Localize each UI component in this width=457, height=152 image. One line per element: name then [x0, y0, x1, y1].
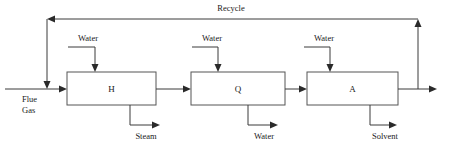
feed-label-line2: Gas [22, 105, 35, 115]
process-flow-diagram: Recycle Flue Gas H Water Steam [0, 0, 457, 152]
feed-inlet-arrow-icon [59, 86, 67, 93]
unit-a-group: A Water Solvent [304, 33, 399, 141]
unit-a-label: A [349, 84, 356, 94]
recycle-up-arrow-icon [415, 19, 422, 27]
unit-q-label: Q [235, 84, 242, 94]
unit-h-steam-outlet-label: Steam [135, 131, 157, 141]
unit-a-solvent-outlet-arrow-icon [389, 122, 397, 129]
unit-h-water-inlet-label: Water [78, 33, 98, 43]
feed-stream-group: Flue Gas [5, 86, 67, 116]
connector-h-to-q-group [156, 86, 191, 93]
connector-h-to-q-arrow-icon [183, 86, 191, 93]
product-outlet-arrow-icon [429, 86, 437, 93]
unit-a-water-inlet-arrow-icon [327, 64, 334, 72]
recycle-label: Recycle [217, 3, 245, 13]
unit-a-water-inlet-line [304, 47, 330, 65]
unit-a-water-inlet-label: Water [314, 33, 334, 43]
recycle-left-arrow-icon [47, 16, 55, 23]
unit-q-group: Q Water Water [191, 33, 285, 141]
flowsheet-canvas: Recycle Flue Gas H Water Steam [0, 0, 457, 152]
unit-a-solvent-outlet-line [370, 105, 390, 125]
unit-h-group: H Water Steam [67, 33, 160, 141]
unit-q-water-inlet-line [192, 47, 218, 65]
unit-q-water-inlet-arrow-icon [215, 64, 222, 72]
unit-h-label: H [108, 84, 115, 94]
connector-q-to-a-arrow-icon [299, 86, 307, 93]
recycle-down-arrow-icon [44, 81, 51, 89]
unit-a-solvent-outlet-label: Solvent [372, 131, 399, 141]
unit-h-steam-outlet-arrow-icon [152, 122, 160, 129]
unit-h-steam-outlet-line [130, 105, 153, 125]
unit-q-water-outlet-label: Water [254, 131, 274, 141]
unit-q-water-outlet-line [248, 105, 271, 125]
connector-q-to-a-group [285, 86, 307, 93]
unit-h-water-inlet-arrow-icon [92, 64, 99, 72]
feed-label-line1: Flue [22, 94, 37, 104]
unit-q-water-inlet-label: Water [202, 33, 222, 43]
unit-h-water-inlet-line [68, 47, 95, 65]
unit-q-water-outlet-arrow-icon [270, 122, 278, 129]
